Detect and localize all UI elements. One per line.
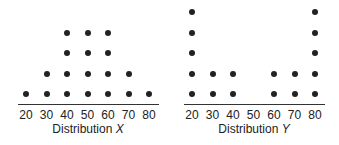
data-dot (105, 30, 111, 36)
data-dot (292, 91, 298, 97)
data-dot (85, 50, 91, 56)
data-dot (64, 50, 70, 56)
data-dot (230, 71, 236, 77)
data-dot (189, 9, 195, 15)
data-dot (126, 91, 132, 97)
x-tick-label: 60 (264, 108, 284, 122)
x-tick-label: 30 (203, 108, 223, 122)
dot-plot-x: Distribution X 20304050607080 (0, 0, 170, 145)
data-dot (64, 30, 70, 36)
x-tick-label: 50 (244, 108, 264, 122)
x-tick-label: 80 (139, 108, 159, 122)
x-tick-label: 70 (119, 108, 139, 122)
data-dot (312, 9, 318, 15)
x-tick-label: 60 (98, 108, 118, 122)
data-dot (64, 91, 70, 97)
data-dot (64, 71, 70, 77)
data-dot (44, 91, 50, 97)
chart-title: Distribution Y (184, 122, 324, 136)
data-dot (85, 91, 91, 97)
data-dot (44, 71, 50, 77)
data-dot (210, 71, 216, 77)
title-text: Distribution (52, 122, 112, 136)
data-dot (312, 91, 318, 97)
data-dot (271, 91, 277, 97)
dot-plot-y: Distribution Y 20304050607080 (170, 0, 339, 145)
data-dot (189, 71, 195, 77)
title-variable: Y (282, 122, 290, 136)
data-dot (105, 71, 111, 77)
x-tick-label: 40 (57, 108, 77, 122)
x-tick-label: 40 (223, 108, 243, 122)
data-dot (312, 50, 318, 56)
x-tick-label: 70 (285, 108, 305, 122)
data-dot (189, 91, 195, 97)
x-tick-label: 80 (305, 108, 325, 122)
data-dot (230, 91, 236, 97)
chart-title: Distribution X (18, 122, 158, 136)
data-dot (146, 91, 152, 97)
x-tick-label: 20 (182, 108, 202, 122)
x-tick-label: 30 (37, 108, 57, 122)
x-axis-line (18, 104, 159, 105)
data-dot (126, 71, 132, 77)
data-dot (105, 91, 111, 97)
data-dot (210, 91, 216, 97)
x-axis-line (184, 104, 325, 105)
data-dot (292, 71, 298, 77)
title-text: Distribution (218, 122, 278, 136)
data-dot (189, 50, 195, 56)
data-dot (312, 30, 318, 36)
data-dot (312, 71, 318, 77)
data-dot (189, 30, 195, 36)
data-dot (105, 50, 111, 56)
data-dot (23, 91, 29, 97)
title-variable: X (116, 122, 124, 136)
data-dot (85, 71, 91, 77)
data-dot (271, 71, 277, 77)
x-tick-label: 50 (78, 108, 98, 122)
data-dot (85, 30, 91, 36)
x-tick-label: 20 (16, 108, 36, 122)
